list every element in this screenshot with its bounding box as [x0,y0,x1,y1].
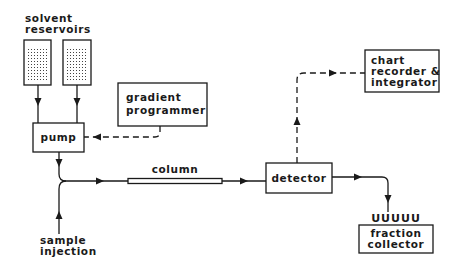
hplc-flow-diagram: solvent reservoirs pump gradient program… [0,0,464,272]
arrow-right-icon [354,174,362,181]
detector-label: detector [271,172,326,184]
arrow-up-icon [294,117,301,125]
arrow-right-icon [240,178,248,185]
detector-to-chart-recorder-edge [294,70,366,164]
gradient-programmer-node: gradient programmer [118,83,207,126]
gradient-programmer-label-line1: gradient [126,91,181,103]
chart-recorder-integrator-node: chart recorder & integrator [365,50,441,92]
chart-recorder-label-line3: integrator [371,76,438,88]
detector-to-fraction-collector-edge [332,174,392,213]
arrow-down-icon [35,98,42,106]
column-label: column [152,163,199,175]
arrow-right-icon [96,178,104,185]
arrow-left-icon [93,134,101,141]
arrow-up-icon [56,211,63,219]
column-node: column [128,163,222,184]
fraction-collector-node: fraction collector [359,225,433,253]
collection-tubes: UUUUU [371,212,421,225]
arrow-down-icon [56,159,63,167]
sample-injection-label-line2: injection [40,245,97,257]
pump-label: pump [41,131,77,143]
solvent-reservoir-1 [24,40,51,85]
sample-injection-to-column-edge [56,181,67,234]
arrow-down-icon [74,98,81,106]
solvent-reservoirs-label: solvent reservoirs [25,12,91,35]
reservoir-2-to-pump-edge [74,85,81,123]
solvent-reservoirs-label-line2: reservoirs [25,23,91,35]
gradient-programmer-label-line2: programmer [126,104,206,116]
arrow-down-icon [385,195,392,203]
fraction-collector-label-line2: collector [368,238,425,250]
column-to-detector-edge [222,178,266,185]
sample-injection-label: sample injection [40,234,97,257]
solvent-reservoir-2 [63,40,91,85]
reservoir-1-to-pump-edge [35,85,42,123]
gradient-programmer-to-pump-edge [84,126,160,141]
pump-node: pump [33,123,84,152]
arrow-right-icon [329,70,337,77]
detector-node: detector [266,163,332,193]
pump-to-column-edge [56,152,129,185]
